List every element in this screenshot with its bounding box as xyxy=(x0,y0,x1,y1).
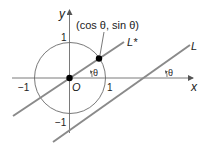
circle-point xyxy=(96,55,102,61)
line-l-label: L xyxy=(191,40,197,52)
angle-arc-inner xyxy=(91,71,93,77)
x-axis-label: x xyxy=(190,80,198,94)
angle-arc-outer xyxy=(166,71,168,77)
tick-y-pos-label: 1 xyxy=(61,32,67,43)
y-axis-label: y xyxy=(58,7,66,21)
line-l-star-label: L* xyxy=(127,36,138,48)
point-label-pointer xyxy=(100,32,104,55)
origin-label: O xyxy=(72,81,81,93)
angle-inner-label: θ xyxy=(93,68,98,78)
point-label: (cos θ, sin θ) xyxy=(76,19,139,31)
tick-x-neg-label: −1 xyxy=(18,82,30,93)
angle-outer-label: θ xyxy=(168,68,173,78)
tick-x-pos-label: 1 xyxy=(107,82,113,93)
line-l xyxy=(53,45,190,142)
diagram-canvas: y x O (cos θ, sin θ) L* L 1 −1 1 −1 θ θ xyxy=(0,0,207,146)
tick-y-neg-label: −1 xyxy=(55,117,67,128)
